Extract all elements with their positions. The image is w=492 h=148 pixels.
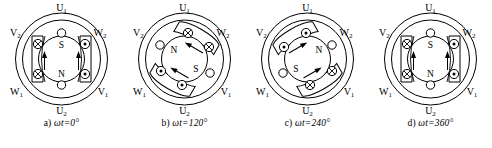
panel-d-diagram: S N bbox=[369, 0, 492, 118]
panel-d: S N bbox=[369, 0, 492, 148]
coil-slot-lower-right bbox=[206, 69, 214, 77]
terminal-label-bottom: U2 bbox=[56, 105, 67, 118]
terminal-label-bottom: U2 bbox=[425, 105, 436, 118]
panel-d-caption: d) ωt=360° bbox=[369, 118, 492, 128]
terminal-label-upper-left: V2 bbox=[133, 27, 144, 40]
terminal-label-lower-right: V1 bbox=[98, 86, 109, 99]
coil-slot-upper-left bbox=[279, 42, 288, 51]
panel-a-diagram: S N bbox=[0, 0, 123, 118]
panel-b-caption-index: b) bbox=[161, 118, 169, 128]
coil-slot-top bbox=[426, 29, 434, 37]
coil-slot-lower-left bbox=[402, 69, 411, 78]
panel-b-svg: N S bbox=[123, 0, 246, 118]
terminal-label-lower-right: V1 bbox=[344, 86, 355, 99]
coil-slot-lower-left bbox=[33, 69, 42, 78]
panel-b-diagram: N S bbox=[123, 0, 246, 118]
panel-c: N S bbox=[246, 0, 369, 148]
coil-slot-bottom bbox=[426, 81, 434, 89]
terminal-label-lower-right: V1 bbox=[467, 86, 478, 99]
pole-label-south: S bbox=[428, 40, 433, 50]
coil-slot-lower-right bbox=[449, 69, 458, 78]
terminal-label-lower-left: W1 bbox=[379, 86, 392, 99]
terminal-label-upper-left: V2 bbox=[256, 27, 267, 40]
terminal-label-upper-right: W2 bbox=[217, 27, 230, 40]
panel-a: S N bbox=[0, 0, 123, 148]
pole-label-south: S bbox=[193, 64, 198, 74]
panel-b: N S bbox=[123, 0, 246, 148]
coil-slot-upper-left bbox=[156, 41, 164, 49]
pole-label-north: N bbox=[171, 45, 178, 55]
panel-a-caption-index: a) bbox=[44, 118, 52, 128]
terminal-label-lower-right: V1 bbox=[221, 86, 232, 99]
pole-label-south: S bbox=[59, 40, 64, 50]
coil-slot-bottom bbox=[57, 81, 65, 89]
pole-label-north: N bbox=[58, 69, 65, 79]
coil-slot-upper-left bbox=[402, 39, 411, 48]
pole-label-north: N bbox=[316, 45, 323, 55]
terminal-label-upper-left: V2 bbox=[379, 27, 390, 40]
panel-a-svg: S N bbox=[0, 0, 123, 118]
coil-slot-top bbox=[183, 28, 192, 37]
panel-c-svg: N S bbox=[246, 0, 369, 118]
terminal-label-upper-right: W2 bbox=[94, 27, 107, 40]
terminal-label-bottom: U2 bbox=[302, 105, 313, 118]
coil-slot-upper-right bbox=[449, 39, 458, 48]
rotor-circle bbox=[162, 36, 208, 82]
panel-b-caption: b) ωt=120° bbox=[123, 118, 246, 128]
coil-slot-upper-right bbox=[328, 41, 336, 49]
panel-c-caption: c) ωt=240° bbox=[246, 118, 369, 128]
panel-c-diagram: N S bbox=[246, 0, 369, 118]
terminal-label-upper-left: V2 bbox=[10, 27, 21, 40]
coil-slot-top bbox=[57, 29, 65, 37]
panel-c-caption-expr: ωt=240° bbox=[295, 118, 330, 128]
terminal-label-lower-left: W1 bbox=[10, 86, 23, 99]
pole-label-south: S bbox=[293, 64, 298, 74]
coil-slot-upper-right bbox=[80, 39, 89, 48]
panel-b-caption-expr: ωt=120° bbox=[172, 118, 207, 128]
pole-label-north: N bbox=[427, 69, 434, 79]
terminal-label-upper-right: W2 bbox=[340, 27, 353, 40]
coil-slot-upper-right bbox=[204, 42, 213, 51]
coil-slot-bottom bbox=[305, 80, 314, 89]
panel-d-caption-index: d) bbox=[407, 118, 415, 128]
terminal-label-upper-right: W2 bbox=[463, 27, 476, 40]
rotating-field-figure: S N bbox=[0, 0, 492, 148]
panel-d-caption-expr: ωt=360° bbox=[418, 118, 453, 128]
panel-c-caption-index: c) bbox=[285, 118, 293, 128]
coil-slot-lower-right bbox=[327, 66, 336, 75]
terminal-label-lower-left: W1 bbox=[133, 86, 146, 99]
coil-slot-upper-left bbox=[33, 39, 42, 48]
coil-slot-lower-left bbox=[279, 69, 287, 77]
terminal-label-lower-left: W1 bbox=[256, 86, 269, 99]
panel-a-caption: a) ωt=0° bbox=[0, 118, 123, 128]
rotor-circle bbox=[285, 36, 331, 82]
coil-slot-top bbox=[301, 28, 310, 37]
terminal-label-bottom: U2 bbox=[179, 105, 190, 118]
panel-d-svg: S N bbox=[369, 0, 492, 118]
coil-slot-lower-right bbox=[80, 69, 89, 78]
panel-a-caption-expr: ωt=0° bbox=[54, 118, 79, 128]
coil-slot-bottom bbox=[177, 80, 186, 89]
coil-slot-lower-left bbox=[156, 66, 165, 75]
